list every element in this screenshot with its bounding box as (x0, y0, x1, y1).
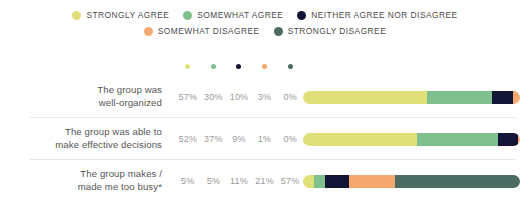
column-dot-icon (262, 64, 267, 69)
percent-value: 57% (277, 176, 303, 186)
row-percent-group: 57%30%10%3%0% (170, 92, 303, 102)
legend-dot-icon (274, 27, 283, 36)
row-label-line2: well-organized (0, 97, 162, 110)
percent-value: 0% (277, 92, 303, 102)
bar-segment[interactable] (349, 175, 395, 188)
row-label-line2: make effective decisions (0, 139, 162, 152)
bar-segment[interactable] (314, 175, 325, 188)
stacked-bar[interactable] (303, 175, 520, 188)
percent-value: 9% (226, 134, 252, 144)
column-dot-icon (211, 64, 216, 69)
legend-item[interactable]: SOMEWHAT DISAGREE (144, 27, 260, 36)
legend-dot-icon (144, 27, 153, 36)
percent-value: 21% (252, 176, 278, 186)
bar-segment[interactable] (427, 91, 492, 104)
stacked-bar-chart: STRONGLY AGREESOMEWHAT AGREENEITHER AGRE… (0, 0, 530, 200)
percent-value: 5% (175, 176, 201, 186)
bar-segment[interactable] (513, 91, 520, 104)
percent-value: 1% (252, 134, 278, 144)
percent-value: 30% (201, 92, 227, 102)
row-label: The group was able tomake effective deci… (0, 126, 170, 151)
legend-item[interactable]: STRONGLY DISAGREE (274, 27, 387, 36)
legend-row-1: STRONGLY AGREESOMEWHAT AGREENEITHER AGRE… (0, 11, 530, 20)
legend-item-label: SOMEWHAT DISAGREE (158, 27, 260, 35)
chart-row: The group was able tomake effective deci… (0, 118, 530, 160)
chart-row: The group makes /made me too busy*5%5%11… (0, 160, 530, 200)
percent-value: 57% (175, 92, 201, 102)
legend-item-label: STRONGLY DISAGREE (288, 27, 387, 35)
column-dot-icon (236, 64, 241, 69)
legend-dot-icon (72, 11, 81, 20)
column-dot-header (175, 64, 303, 69)
column-dot-cell (252, 64, 278, 69)
row-label-line2: made me too busy* (0, 181, 162, 194)
legend-item-label: STRONGLY AGREE (86, 11, 169, 19)
legend-row-2: SOMEWHAT DISAGREESTRONGLY DISAGREE (0, 27, 530, 36)
percent-value: 11% (226, 176, 252, 186)
bar-segment[interactable] (417, 133, 498, 146)
bar-segment[interactable] (518, 133, 520, 146)
bar-segment[interactable] (303, 91, 427, 104)
legend-item-label: NEITHER AGREE NOR DISAGREE (311, 11, 457, 19)
column-dot-icon (288, 64, 293, 69)
bar-segment[interactable] (303, 133, 417, 146)
legend-item[interactable]: STRONGLY AGREE (72, 11, 169, 20)
bar-segment[interactable] (325, 175, 349, 188)
stacked-bar[interactable] (303, 133, 520, 146)
column-dot-cell (277, 64, 303, 69)
legend-item-label: SOMEWHAT AGREE (197, 11, 283, 19)
legend-dot-icon (183, 11, 192, 20)
row-label-line1: The group was able to (0, 126, 162, 139)
row-label: The group waswell-organized (0, 84, 170, 109)
row-label-line1: The group makes / (0, 168, 162, 181)
stacked-bar[interactable] (303, 91, 520, 104)
chart-rows: The group waswell-organized57%30%10%3%0%… (0, 76, 530, 200)
percent-value: 37% (201, 134, 227, 144)
row-label: The group makes /made me too busy* (0, 168, 170, 193)
row-percent-group: 52%37%9%1%0% (170, 134, 303, 144)
percent-value: 10% (226, 92, 252, 102)
chart-row: The group waswell-organized57%30%10%3%0% (0, 76, 530, 118)
row-percent-group: 5%5%11%21%57% (170, 176, 303, 186)
bar-segment[interactable] (498, 133, 518, 146)
legend-item[interactable]: NEITHER AGREE NOR DISAGREE (297, 11, 457, 20)
bar-segment[interactable] (303, 175, 314, 188)
percent-value: 5% (201, 176, 227, 186)
legend-dot-icon (297, 11, 306, 20)
column-dot-cell (201, 64, 227, 69)
bar-segment[interactable] (492, 91, 514, 104)
column-dot-cell (226, 64, 252, 69)
percent-value: 52% (175, 134, 201, 144)
row-label-line1: The group was (0, 84, 162, 97)
column-dot-icon (185, 64, 190, 69)
bar-segment[interactable] (395, 175, 520, 188)
percent-value: 0% (277, 134, 303, 144)
percent-value: 3% (252, 92, 278, 102)
chart-legend: STRONGLY AGREESOMEWHAT AGREENEITHER AGRE… (0, 0, 530, 36)
column-dot-cell (175, 64, 201, 69)
legend-item[interactable]: SOMEWHAT AGREE (183, 11, 283, 20)
